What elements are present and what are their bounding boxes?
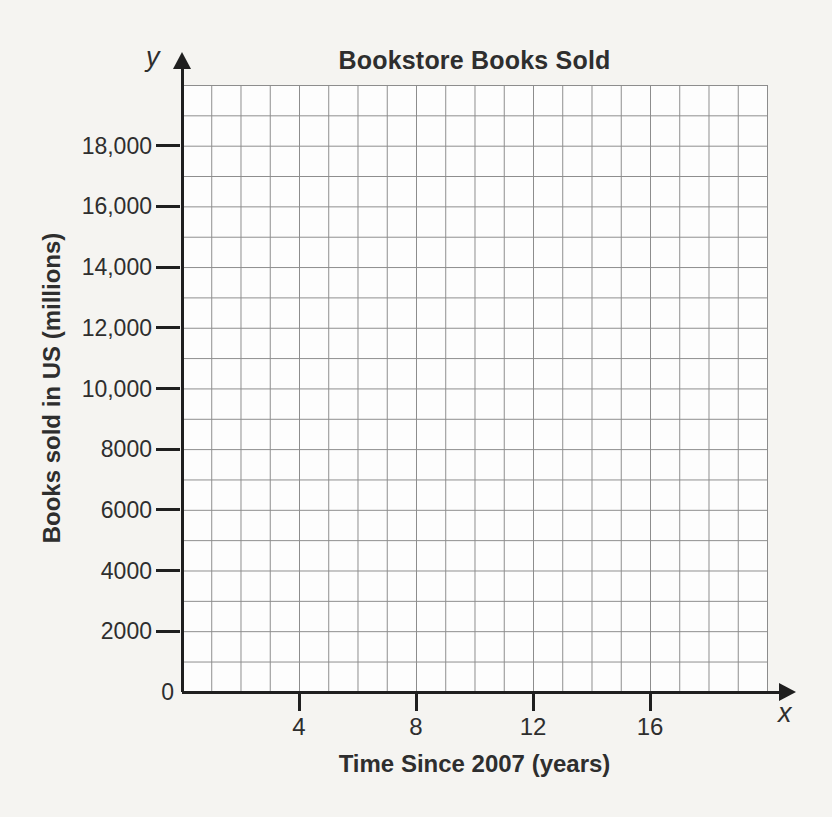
y-tick-label: 6000: [40, 496, 152, 524]
x-tick-mark: [649, 692, 652, 711]
y-tick-label: 16,000: [40, 192, 152, 220]
y-tick-label: 10,000: [40, 375, 152, 403]
plot-grid: [182, 85, 768, 692]
y-tick-mark: [156, 448, 180, 451]
x-axis-letter: x: [778, 698, 792, 729]
x-tick-mark: [298, 692, 301, 711]
y-axis-arrow-icon: [173, 52, 191, 69]
y-tick-mark: [156, 387, 180, 390]
y-tick-mark: [156, 144, 180, 147]
y-tick-label: 8000: [40, 435, 152, 463]
x-axis-title: Time Since 2007 (years): [182, 750, 767, 778]
y-tick-mark: [156, 630, 180, 633]
y-axis-letter: y: [146, 42, 160, 73]
x-tick-label: 8: [376, 712, 456, 742]
x-tick-mark: [532, 692, 535, 711]
x-tick-label: 12: [493, 712, 573, 742]
chart-canvas: Bookstore Books Sold y x Books sold in U…: [0, 0, 832, 817]
y-tick-label: 2000: [40, 617, 152, 645]
y-axis-line: [181, 66, 184, 692]
x-tick-label: 16: [610, 712, 690, 742]
y-tick-label: 4000: [40, 557, 152, 585]
x-axis-line: [182, 691, 780, 694]
y-tick-label: 14,000: [40, 253, 152, 281]
y-tick-mark: [156, 205, 180, 208]
y-tick-label: 0: [40, 678, 174, 706]
y-tick-label: 18,000: [40, 132, 152, 160]
chart-title: Bookstore Books Sold: [182, 46, 767, 75]
y-tick-label: 12,000: [40, 314, 152, 342]
x-tick-mark: [415, 692, 418, 711]
y-tick-mark: [156, 326, 180, 329]
y-tick-mark: [156, 266, 180, 269]
x-tick-label: 4: [259, 712, 339, 742]
y-tick-mark: [156, 569, 180, 572]
y-tick-mark: [156, 508, 180, 511]
